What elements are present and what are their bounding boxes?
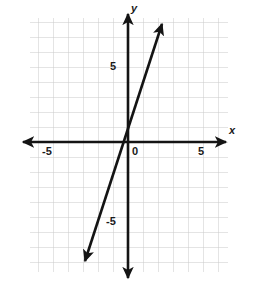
x-axis-tick-label-pos5: 5 [198, 146, 204, 157]
x-axis-name-label: x [229, 125, 235, 136]
y-axis-tick-label-neg5: -5 [106, 216, 116, 227]
y-axis-tick-label-pos5: 5 [110, 61, 116, 72]
origin-label: 0 [132, 146, 138, 157]
coordinate-plane-graph: -5 5 5 -5 0 x y [0, 0, 253, 288]
plot-area [0, 0, 253, 288]
y-axis-name-label: y [131, 3, 137, 14]
x-axis-tick-label-neg5: -5 [42, 146, 52, 157]
